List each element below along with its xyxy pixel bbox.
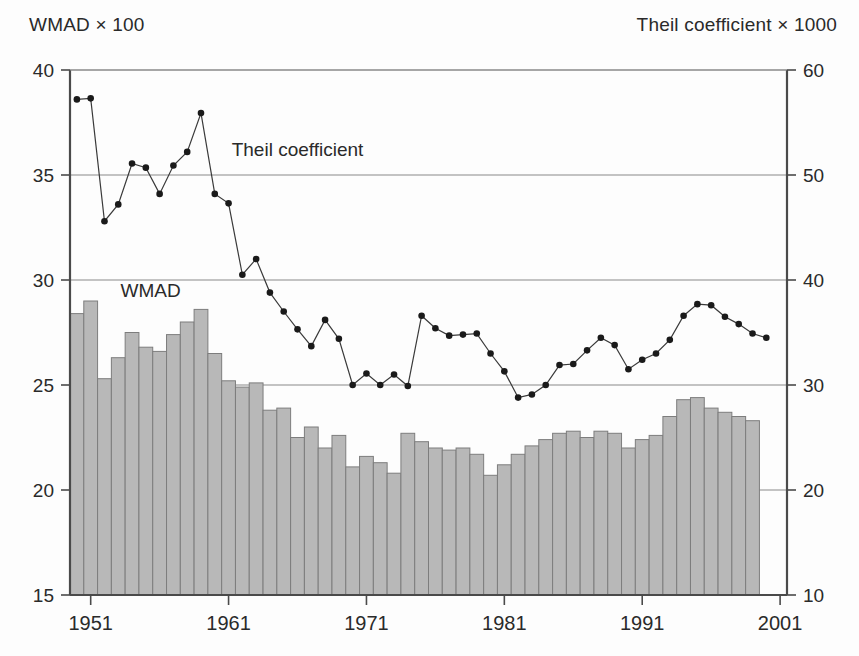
bar — [566, 431, 580, 595]
theil-marker — [763, 334, 770, 341]
left-tick-label: 40 — [33, 60, 54, 81]
theil-marker — [432, 325, 439, 332]
theil-marker — [184, 149, 191, 156]
theil-marker — [653, 350, 660, 357]
bar — [194, 309, 208, 595]
theil-marker — [101, 218, 108, 225]
theil-marker — [515, 394, 522, 401]
x-axis-ticks: 195119611971198119912001 — [68, 595, 802, 634]
theil-marker — [529, 391, 536, 398]
wmad-series-label: WMAD — [121, 280, 181, 301]
right-axis-ticks: 102030405060 — [787, 60, 824, 606]
theil-marker — [680, 312, 687, 319]
x-tick-label: 1981 — [482, 612, 527, 634]
left-tick-label: 30 — [33, 270, 54, 291]
bar — [497, 465, 511, 595]
right-tick-label: 10 — [803, 585, 824, 606]
theil-marker — [667, 337, 674, 344]
theil-marker — [487, 350, 494, 357]
left-tick-label: 20 — [33, 480, 54, 501]
theil-marker — [391, 371, 398, 378]
x-tick-label: 1951 — [68, 612, 113, 634]
theil-marker — [639, 357, 646, 364]
theil-marker — [349, 382, 356, 389]
theil-marker — [584, 347, 591, 354]
bar — [608, 433, 622, 595]
bar — [70, 314, 84, 595]
right-tick-label: 20 — [803, 480, 824, 501]
right-tick-label: 40 — [803, 270, 824, 291]
bar — [277, 408, 291, 595]
bar — [511, 454, 525, 595]
theil-marker — [115, 201, 122, 208]
bar — [318, 448, 332, 595]
theil-marker — [143, 164, 150, 171]
theil-marker — [598, 334, 605, 341]
bar — [677, 400, 691, 595]
bar — [291, 438, 305, 596]
theil-marker — [570, 361, 577, 368]
right-tick-label: 60 — [803, 60, 824, 81]
theil-marker — [198, 110, 205, 117]
theil-series-label: Theil coefficient — [232, 139, 364, 160]
bar — [387, 473, 401, 595]
theil-marker — [501, 368, 508, 375]
bar — [360, 456, 374, 595]
bar — [249, 383, 263, 595]
bar — [139, 347, 153, 595]
theil-marker — [211, 191, 218, 198]
theil-marker — [336, 336, 343, 343]
chart-canvas: 152025303540 102030405060 19511961197119… — [0, 0, 859, 656]
bar — [235, 387, 249, 595]
theil-marker — [377, 382, 384, 389]
x-tick-label: 1971 — [344, 612, 389, 634]
left-tick-label: 35 — [33, 165, 54, 186]
bar — [704, 408, 718, 595]
theil-marker — [308, 343, 315, 350]
bar — [442, 450, 456, 595]
bar — [84, 301, 98, 595]
bar — [415, 442, 429, 595]
bar — [580, 438, 594, 596]
bar — [539, 440, 553, 595]
left-tick-label: 15 — [33, 585, 54, 606]
right-tick-label: 50 — [803, 165, 824, 186]
bar — [401, 433, 415, 595]
theil-marker — [322, 317, 329, 324]
theil-marker — [253, 256, 260, 263]
bar — [263, 410, 277, 595]
theil-marker — [129, 160, 136, 167]
theil-marker — [225, 200, 232, 207]
theil-marker — [556, 362, 563, 369]
bar — [470, 454, 484, 595]
bar — [484, 475, 498, 595]
bar — [167, 335, 181, 595]
right-tick-label: 30 — [803, 375, 824, 396]
theil-marker — [446, 332, 453, 339]
theil-marker — [239, 271, 246, 278]
theil-marker — [156, 191, 163, 198]
theil-marker — [735, 321, 742, 328]
theil-marker — [405, 383, 412, 390]
chart-figure: WMAD × 100 Theil coefficient × 1000 1520… — [0, 0, 859, 656]
theil-marker — [418, 312, 425, 319]
bar — [635, 440, 649, 595]
left-tick-label: 25 — [33, 375, 54, 396]
bar — [111, 358, 125, 595]
bar — [690, 398, 704, 595]
theil-marker — [625, 366, 632, 373]
theil-marker — [280, 308, 287, 315]
left-axis-ticks: 152025303540 — [33, 60, 70, 606]
x-tick-label: 1961 — [206, 612, 251, 634]
bars-group — [70, 301, 759, 595]
theil-marker — [542, 382, 549, 389]
bar — [332, 435, 346, 595]
bar — [649, 435, 663, 595]
theil-marker — [708, 302, 715, 309]
theil-marker — [460, 331, 467, 338]
bar — [304, 427, 318, 595]
bar — [525, 446, 539, 595]
bar — [594, 431, 608, 595]
bar — [718, 412, 732, 595]
bar — [208, 354, 222, 596]
